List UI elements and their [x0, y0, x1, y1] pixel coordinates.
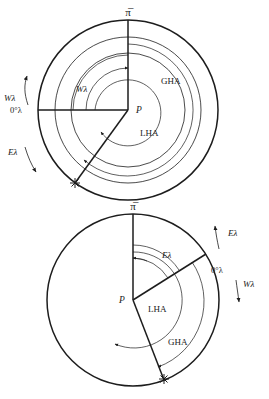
lower-west-lambda-label: Wλ — [243, 279, 254, 289]
lower-diagram-east-longitude: π̅ P Eλ LHA GHA 0°λ Eλ Wλ — [47, 200, 254, 386]
lower-star-marker — [159, 374, 169, 384]
lower-east-direction-arrow — [215, 226, 219, 249]
lower-inner-e-lambda-label: Eλ — [161, 250, 171, 260]
lower-pole-label: P — [118, 295, 125, 305]
upper-aries-label: π̅ — [125, 6, 134, 18]
diagram-canvas: π̅ P GHA LHA 0°λ Wλ Wλ Eλ — [0, 0, 269, 399]
lower-lha-label: LHA — [148, 304, 167, 314]
lower-west-direction-arrow — [236, 280, 239, 302]
lower-greenwich-meridian-radius — [133, 254, 206, 300]
upper-east-direction-arrow — [25, 147, 36, 172]
lower-gha-label: GHA — [168, 337, 188, 347]
lower-lha-arc — [115, 252, 182, 348]
upper-west-direction-arrow — [25, 76, 28, 105]
upper-east-lambda-label: Eλ — [7, 147, 17, 157]
lower-east-lambda-label: Eλ — [227, 228, 237, 238]
upper-zero-meridian-label: 0°λ — [10, 105, 23, 115]
upper-star-radius — [75, 110, 128, 183]
upper-w-lambda-arc-outer — [73, 55, 128, 110]
celestial-navigation-figure: π̅ P GHA LHA 0°λ Wλ Wλ Eλ — [0, 0, 269, 399]
upper-gha-label: GHA — [161, 76, 181, 86]
upper-w-lambda-arc — [86, 68, 128, 110]
upper-diagram-west-longitude: π̅ P GHA LHA 0°λ Wλ Wλ Eλ — [4, 6, 218, 200]
upper-pole-label: P — [135, 105, 142, 115]
lower-gha-arc — [158, 262, 204, 367]
upper-lha-label: LHA — [140, 128, 159, 138]
upper-star-marker — [70, 178, 80, 188]
upper-inner-w-lambda-label: Wλ — [76, 84, 87, 94]
upper-west-lambda-label: Wλ — [4, 93, 15, 103]
lower-zero-meridian-label: 0°λ — [211, 265, 224, 275]
lower-aries-label: π̅ — [130, 200, 139, 212]
